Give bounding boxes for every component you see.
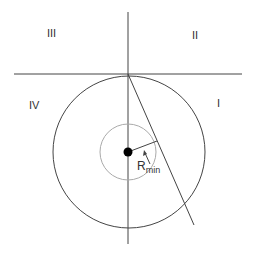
quadrant-label-ii: II (192, 29, 198, 41)
diagram-canvas (0, 0, 255, 254)
radius-min-label: Rmin (137, 159, 160, 175)
quadrant-label-iv: IV (29, 99, 39, 111)
quadrant-label-iii: III (47, 27, 56, 39)
radius-symbol: R (137, 159, 146, 173)
radius-line (128, 141, 157, 152)
quadrant-label-i: I (217, 97, 220, 109)
radius-subscript: min (146, 165, 161, 175)
tangent-line (128, 74, 194, 225)
center-dot (124, 148, 133, 157)
